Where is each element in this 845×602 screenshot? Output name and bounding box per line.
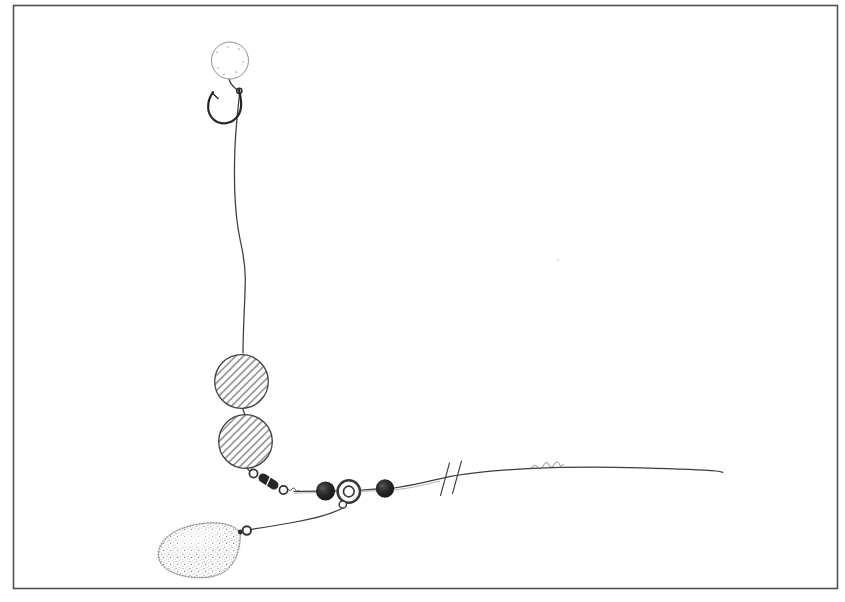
bead-right-highlight bbox=[379, 484, 385, 488]
float-bead-upper bbox=[215, 355, 269, 409]
bead-left-highlight bbox=[319, 486, 325, 490]
swivel-eye-bottom bbox=[279, 486, 287, 494]
fishing-rig-figure bbox=[0, 0, 845, 602]
swivel-eye-top bbox=[249, 469, 257, 477]
rubber-bead-right bbox=[376, 479, 394, 497]
paper-speck bbox=[557, 259, 560, 262]
float-bead-lower bbox=[219, 415, 273, 469]
rubber-bead-left bbox=[316, 481, 335, 500]
bait-ball-outline bbox=[212, 42, 249, 79]
lead-eyelet bbox=[243, 526, 251, 534]
run-ring-link-loop bbox=[339, 501, 346, 508]
pop-up-bait bbox=[212, 42, 249, 79]
illustration-page bbox=[0, 0, 845, 602]
paper-background bbox=[0, 0, 845, 602]
run-ring-inner bbox=[344, 486, 355, 497]
